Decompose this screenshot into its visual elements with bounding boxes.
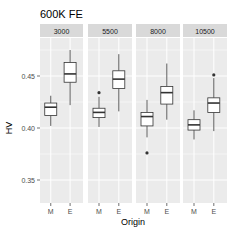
outlier-point [145,151,148,154]
x-tick-label: E [164,208,169,215]
x-tick-label: E [68,208,73,215]
y-axis: 0.350.400.45 [21,73,40,184]
y-tick-label: 0.45 [21,73,35,80]
x-tick-label: E [211,208,216,215]
x-tick-label: M [48,208,54,215]
chart-title: 600K FE [40,8,83,20]
facet-panels: 3000ME5500ME8000ME10500ME [40,24,227,215]
outlier-point [212,73,215,76]
y-axis-title: HV [4,122,14,135]
x-tick-label: M [144,208,150,215]
y-tick-label: 0.35 [21,177,35,184]
facet-strip-label: 10500 [195,28,215,35]
facet-strip-label: 8000 [150,28,166,35]
facet-panel: 5500ME [88,24,132,215]
x-tick-label: M [96,208,102,215]
facet-strip-label: 3000 [54,28,70,35]
facet-panel: 8000ME [136,24,180,215]
x-axis-title: Origin [121,217,145,227]
panel-background [88,38,132,203]
facet-panel: 3000ME [40,24,83,215]
facet-strip-label: 5500 [102,28,118,35]
x-tick-label: E [116,208,121,215]
outlier-point [97,91,100,94]
panel-background [40,38,83,203]
boxplot-chart: 600K FE 3000ME5500ME8000ME10500ME 0.350.… [0,0,237,234]
facet-panel: 10500ME [183,24,227,215]
x-tick-label: M [191,208,197,215]
y-tick-label: 0.40 [21,125,35,132]
